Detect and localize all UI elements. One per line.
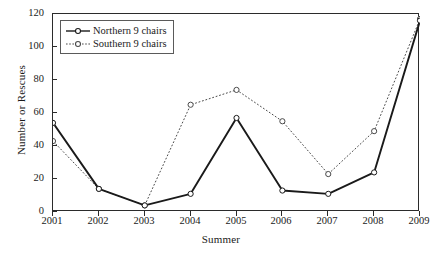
legend-label-southern: Southern 9 chairs bbox=[93, 38, 167, 50]
data-point bbox=[188, 191, 193, 196]
x-tick-label-2003: 2003 bbox=[122, 215, 166, 226]
x-tick-label-2002: 2002 bbox=[76, 215, 120, 226]
legend: Northern 9 chairs Southern 9 chairs bbox=[60, 20, 174, 54]
data-point bbox=[372, 129, 377, 134]
x-tick-label-2006: 2006 bbox=[259, 215, 303, 226]
data-point bbox=[96, 186, 101, 191]
legend-label-northern: Northern 9 chairs bbox=[93, 25, 166, 37]
legend-item-northern: Northern 9 chairs bbox=[65, 24, 167, 37]
y-axis-title: Number or Rescues bbox=[15, 10, 27, 210]
data-point bbox=[326, 171, 331, 176]
x-tick-label-2004: 2004 bbox=[168, 215, 212, 226]
data-point bbox=[53, 120, 56, 125]
data-point bbox=[188, 102, 193, 107]
legend-sample-solid-line-icon bbox=[65, 25, 91, 37]
data-point bbox=[53, 138, 56, 143]
legend-sample-dotted-line-icon bbox=[65, 38, 91, 50]
x-tick-label-2001: 2001 bbox=[30, 215, 74, 226]
data-point bbox=[142, 203, 147, 208]
x-tick-label-2005: 2005 bbox=[214, 215, 258, 226]
data-point bbox=[326, 191, 331, 196]
x-tick-label-2007: 2007 bbox=[305, 215, 349, 226]
data-point bbox=[280, 119, 285, 124]
data-point bbox=[280, 188, 285, 193]
data-point bbox=[234, 87, 239, 92]
data-point bbox=[417, 18, 420, 23]
line-chart-figure: 120 100 80 60 40 20 0 2001 2002 2003 200… bbox=[0, 0, 442, 257]
legend-item-southern: Southern 9 chairs bbox=[65, 37, 167, 50]
data-point bbox=[234, 115, 239, 120]
x-tick-label-2009: 2009 bbox=[397, 215, 441, 226]
data-point bbox=[372, 170, 377, 175]
x-tick-label-2008: 2008 bbox=[351, 215, 395, 226]
x-axis-title: Summer bbox=[0, 233, 442, 245]
